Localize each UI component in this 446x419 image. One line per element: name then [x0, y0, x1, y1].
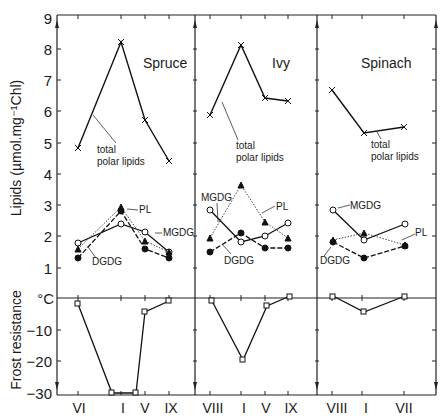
y-axis-label-lipids: Lipids (µmol.mg⁻¹Chl): [8, 80, 24, 216]
spinach-pl-label: PL: [415, 227, 428, 238]
y-axis-label-frost: Frost resistance: [8, 290, 24, 390]
svg-text:IX: IX: [284, 400, 298, 416]
svg-text:IX: IX: [164, 400, 178, 416]
svg-text:°C: °C: [37, 290, 54, 307]
ivy-pl-leader: [262, 206, 275, 213]
svg-text:−20: −20: [27, 353, 52, 370]
ivy-dgdg-label: DGDG: [224, 255, 254, 266]
svg-text:I: I: [242, 400, 246, 416]
spinach-mgdg-leader: [338, 205, 350, 208]
svg-text:VIII: VIII: [326, 400, 347, 416]
y-tick-labels: 9 8 7 6 5 4 3 2 1 °C −10 −20 −30: [27, 10, 55, 402]
spruce-pl-leader: [127, 209, 138, 210]
spruce-dgdg-label: DGDG: [92, 256, 122, 267]
svg-text:−10: −10: [27, 322, 52, 339]
svg-text:6: 6: [44, 103, 52, 120]
spinach-pl-leader: [402, 234, 415, 240]
svg-text:5: 5: [44, 135, 52, 152]
ivy-mgdg-label: MGDG: [201, 192, 232, 203]
svg-text:9: 9: [44, 10, 52, 27]
panel-title-spinach: Spinach: [361, 55, 412, 71]
spruce-total-label2: polar lipids: [97, 156, 145, 167]
svg-text:1: 1: [44, 260, 52, 277]
svg-text:3: 3: [44, 197, 52, 214]
ivy-frost-markers: [209, 294, 292, 362]
spinach-total-polar-lipids: [332, 90, 404, 133]
svg-text:7: 7: [44, 72, 52, 89]
panel-title-spruce: Spruce: [143, 55, 188, 71]
x-month-labels: VI I V IX VIII I V IX VIII I VII: [72, 400, 412, 416]
spinach-dgdg-label: DGDG: [320, 255, 350, 266]
ivy-total-label2: polar lipids: [236, 152, 284, 163]
spruce-mgdg-line: [78, 224, 169, 252]
spruce-dgdg-line: [78, 211, 169, 258]
svg-text:2: 2: [44, 228, 52, 245]
spinach-mgdg-line: [333, 210, 405, 240]
ivy-mgdg-line: [210, 210, 288, 242]
spruce-total-leader: [93, 115, 116, 143]
svg-text:VI: VI: [72, 400, 85, 416]
panel-title-ivy: Ivy: [272, 55, 290, 71]
svg-text:VIII: VIII: [202, 400, 223, 416]
spinach-total-label: total: [371, 139, 390, 150]
spinach-total-label2: polar lipids: [371, 151, 419, 162]
spruce-frost-markers: [75, 298, 171, 395]
svg-text:V: V: [140, 400, 150, 416]
ivy-total-label: total: [236, 140, 255, 151]
svg-text:I: I: [121, 400, 125, 416]
ivy-total-leader: [222, 102, 238, 140]
spruce-pl-label: PL: [139, 204, 152, 215]
frost-lipid-chart: 9 8 7 6 5 4 3 2 1 °C −10 −20 −30 Lipids …: [0, 0, 446, 419]
spruce-markers: [75, 204, 172, 261]
svg-text:−30: −30: [27, 385, 52, 402]
ivy-total-markers: [207, 42, 291, 118]
spruce-mgdg-label: MGDG: [163, 227, 194, 238]
spinach-mgdg-label: MGDG: [350, 200, 381, 211]
svg-text:4: 4: [44, 166, 52, 183]
ivy-dgdg-line: [210, 233, 288, 252]
spinach-pl-line: [333, 233, 405, 245]
spruce-frost-line: [78, 301, 169, 393]
spinach-frost-markers: [330, 294, 407, 314]
svg-text:8: 8: [44, 41, 52, 58]
svg-text:V: V: [261, 400, 271, 416]
svg-text:VII: VII: [395, 400, 412, 416]
ivy-frost-line: [212, 296, 290, 360]
svg-text:I: I: [364, 400, 368, 416]
ivy-dgdg-leader: [222, 244, 231, 254]
ivy-mgdg-leader: [217, 203, 218, 222]
spinach-total-leader: [377, 132, 381, 139]
spruce-total-label: total: [97, 144, 116, 155]
ivy-pl-label: PL: [276, 201, 289, 212]
